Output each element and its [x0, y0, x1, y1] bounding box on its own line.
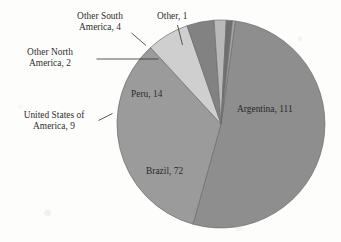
label-peru: Peru, 14 — [131, 89, 162, 100]
leader-line-united-states — [99, 114, 113, 121]
label-united-states-line1: United States of — [8, 110, 100, 121]
leader-line-other-south-america — [132, 33, 147, 46]
label-other-north-america-line1: Other North — [4, 47, 96, 58]
label-argentina: Argentina, 111 — [237, 104, 293, 115]
label-other-north-america: Other North America, 2 — [4, 47, 96, 69]
pie-chart: Other South America, 4 Other, 1 Other No… — [0, 0, 341, 242]
label-united-states: United States of America, 9 — [8, 110, 100, 132]
pie-slices — [117, 20, 325, 228]
label-other: Other, 1 — [157, 11, 188, 22]
label-other-south-america-line2: America, 4 — [55, 22, 145, 33]
label-united-states-line2: America, 9 — [8, 121, 100, 132]
label-other-north-america-line2: America, 2 — [4, 58, 96, 69]
label-brazil: Brazil, 72 — [146, 166, 183, 177]
label-other-south-america-line1: Other South — [55, 11, 145, 22]
label-other-south-america: Other South America, 4 — [55, 11, 145, 33]
